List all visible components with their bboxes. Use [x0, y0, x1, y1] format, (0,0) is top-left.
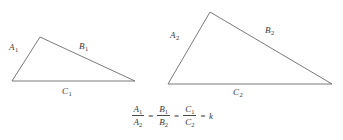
equals-sign-3: = [200, 111, 205, 121]
triangle-1-side-a-letter: A [9, 42, 15, 52]
triangle-2-side-c-letter: C [233, 87, 239, 97]
fraction-c-denominator-subscript: 2 [191, 121, 194, 128]
fraction-a: A1 A2 [132, 104, 145, 127]
fraction-b-numerator: B1 [157, 104, 170, 116]
equals-sign-2: = [174, 111, 179, 121]
triangle-1-side-c-letter: C [62, 86, 68, 96]
fraction-b-denominator-letter: B [159, 117, 165, 127]
fraction-b-numerator-subscript: 1 [165, 108, 168, 115]
triangle-2-side-c-subscript: 2 [240, 91, 243, 98]
triangle-1-shape [12, 37, 135, 81]
equals-sign-1: = [148, 111, 153, 121]
triangle-2-side-a-label: A2 [170, 31, 179, 40]
fraction-a-denominator-subscript: 2 [139, 121, 142, 128]
triangle-2-side-a-subscript: 2 [176, 34, 179, 41]
fraction-c-denominator: C2 [183, 116, 196, 127]
fraction-b-numerator-letter: B [159, 104, 165, 114]
triangle-2-shape [168, 12, 332, 84]
triangle-1-side-b-label: B1 [79, 42, 88, 51]
triangle-1-side-c-label: C1 [62, 87, 72, 96]
fraction-a-denominator: A2 [132, 116, 145, 127]
triangle-1-side-b-subscript: 1 [85, 45, 88, 52]
fraction-c-numerator: C1 [183, 104, 196, 116]
fraction-b: B1 B2 [157, 104, 170, 127]
fraction-c: C1 C2 [183, 104, 196, 127]
similar-triangles-figure: A1 B1 C1 A2 B2 C2 A1 A2 = B1 B2 = C1 C2 … [0, 0, 343, 140]
triangle-1-side-c-subscript: 1 [69, 90, 72, 97]
triangle-2-side-a-letter: A [170, 30, 176, 40]
fraction-b-denominator-subscript: 2 [165, 121, 168, 128]
triangle-1-side-a-subscript: 1 [15, 46, 18, 53]
fraction-a-numerator: A1 [132, 104, 145, 116]
triangle-2-side-b-label: B2 [265, 26, 274, 35]
fraction-a-numerator-subscript: 1 [139, 108, 142, 115]
triangle-2-side-c-label: C2 [233, 88, 243, 97]
triangle-2-side-b-letter: B [265, 25, 271, 35]
fraction-c-numerator-subscript: 1 [191, 108, 194, 115]
triangle-1-side-a-label: A1 [9, 43, 18, 52]
triangle-1-side-b-letter: B [79, 41, 85, 51]
triangle-2-side-b-subscript: 2 [271, 29, 274, 36]
fraction-b-denominator: B2 [157, 116, 170, 127]
proportionality-equation: A1 A2 = B1 B2 = C1 C2 = k [0, 104, 343, 127]
constant-k: k [209, 111, 213, 121]
